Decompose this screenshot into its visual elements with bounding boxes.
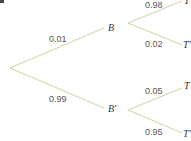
prob-root-b: 0.01 xyxy=(49,34,67,44)
prob-bp-t-prime: 0.95 xyxy=(145,127,163,137)
node-bp-t: T xyxy=(184,81,190,91)
node-b-t-prime: T' xyxy=(183,40,191,50)
prob-b-t: 0.98 xyxy=(145,0,163,10)
prob-b-t-prime: 0.02 xyxy=(145,39,163,49)
probability-tree-diagram: 0.01 0.99 0.98 0.02 0.05 0.95 B B' T T' … xyxy=(0,0,191,141)
tree-branches xyxy=(0,0,191,141)
prob-bp-t: 0.05 xyxy=(145,86,163,96)
prob-root-b-prime: 0.99 xyxy=(49,94,67,104)
node-bp-t-prime: T' xyxy=(183,129,191,139)
node-b: B xyxy=(108,23,114,33)
node-b-prime: B' xyxy=(108,104,116,114)
node-b-t: T xyxy=(184,0,190,6)
